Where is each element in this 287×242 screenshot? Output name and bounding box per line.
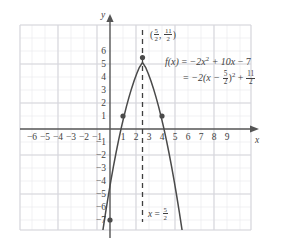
svg-text:−7: −7 xyxy=(96,215,106,225)
equation-linear-term: + 10x xyxy=(209,56,235,67)
vertex-form-k-numerator: 11 xyxy=(246,71,255,78)
axis-symmetry-fraction: 52 xyxy=(163,206,168,221)
svg-text:−3: −3 xyxy=(96,163,106,173)
svg-text:3: 3 xyxy=(147,132,152,142)
equation-standard-form: f(x) = −2x2 + 10x − 7 xyxy=(165,57,255,67)
vertex-coordinate-label: (52, 112) xyxy=(150,27,176,42)
vertex-form-k-denominator: 2 xyxy=(246,78,255,86)
svg-text:6: 6 xyxy=(101,46,106,56)
svg-text:1: 1 xyxy=(121,132,126,142)
svg-text:8: 8 xyxy=(212,132,217,142)
point-y-intercept xyxy=(107,217,112,222)
svg-text:2: 2 xyxy=(134,132,139,142)
svg-text:−5: −5 xyxy=(96,189,106,199)
svg-text:4: 4 xyxy=(101,72,106,82)
function-equation-annotation: f(x) = −2x2 + 10x − 7 = −2(x − 52)2 + 11… xyxy=(165,57,255,86)
point-vertex xyxy=(140,55,145,60)
vertex-form-h-numerator: 5 xyxy=(223,71,228,78)
vertex-form-equals: = xyxy=(183,72,191,83)
svg-text:7: 7 xyxy=(199,132,204,142)
svg-text:5: 5 xyxy=(101,59,106,69)
svg-text:−4: −4 xyxy=(53,132,63,142)
x-axis-title: x xyxy=(255,136,259,146)
vertex-y-denominator: 2 xyxy=(164,34,172,42)
function-argument: (x) xyxy=(168,56,179,67)
svg-text:−2: −2 xyxy=(79,132,89,142)
vertex-form-lead: −2(x − xyxy=(191,72,222,83)
equation-equals: = xyxy=(179,56,190,67)
svg-text:6: 6 xyxy=(186,132,191,142)
vertex-form-k-fraction: 112 xyxy=(246,71,255,87)
vertex-x-numerator: 5 xyxy=(154,27,159,34)
svg-text:−4: −4 xyxy=(96,176,106,186)
svg-text:5: 5 xyxy=(173,132,178,142)
vertex-x-denominator: 2 xyxy=(154,34,159,42)
svg-text:−2: −2 xyxy=(96,150,106,160)
vertex-form-h-denominator: 2 xyxy=(223,78,228,86)
svg-text:4: 4 xyxy=(160,132,165,142)
svg-text:−6: −6 xyxy=(96,202,106,212)
graph-figure: −6 −5 −4 −3 −2 −1 1 2 3 4 5 6 7 8 9 6 5 … xyxy=(0,0,287,242)
vertex-comma: , xyxy=(159,30,164,40)
axis-symmetry-equals: = xyxy=(152,209,162,219)
y-axis-title: y xyxy=(101,11,105,21)
point-right xyxy=(159,113,164,118)
vertex-close-paren: ) xyxy=(173,30,176,40)
svg-text:−1: −1 xyxy=(96,137,106,147)
svg-text:−3: −3 xyxy=(66,132,76,142)
coordinate-plane: −6 −5 −4 −3 −2 −1 1 2 3 4 5 6 7 8 9 6 5 … xyxy=(0,0,287,242)
vertex-y-fraction: 112 xyxy=(164,27,172,42)
vertex-y-numerator: 11 xyxy=(164,27,172,34)
axis-symmetry-numerator: 5 xyxy=(163,206,168,213)
point-left xyxy=(120,113,125,118)
vertex-form-plus: + xyxy=(235,72,246,83)
svg-text:9: 9 xyxy=(225,132,230,142)
x-tick-labels: −6 −5 −4 −3 −2 −1 1 2 3 4 5 6 7 8 9 xyxy=(27,132,230,142)
svg-text:2: 2 xyxy=(101,98,106,108)
vertex-x-fraction: 52 xyxy=(154,27,159,42)
svg-text:−5: −5 xyxy=(40,132,50,142)
axis-of-symmetry-label: x = 52 xyxy=(148,206,168,221)
equation-constant-term: − 7 xyxy=(235,56,251,67)
vertex-form-h-fraction: 52 xyxy=(223,71,228,87)
svg-text:3: 3 xyxy=(101,85,106,95)
axis-symmetry-denominator: 2 xyxy=(163,213,168,221)
equation-quadratic-term: −2x xyxy=(190,56,206,67)
equation-vertex-form: = −2(x − 52)2 + 112 xyxy=(183,71,255,87)
svg-text:1: 1 xyxy=(101,111,106,121)
svg-text:−6: −6 xyxy=(27,132,37,142)
